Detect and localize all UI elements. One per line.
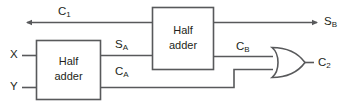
signal-label-y: Y [10,80,18,92]
signal-c1-base: C [58,5,66,17]
or-gate[interactable] [272,48,305,78]
signal-ca-base: C [115,65,123,77]
output-sb-arrow-icon [312,20,318,25]
carry-in-arrow-icon [26,20,32,25]
signal-sa-sub: A [123,43,129,52]
half-adder-b-label-line1: Half [173,24,194,36]
signal-label-x: X [10,48,18,60]
signal-x-base: X [10,48,18,60]
half-adder-b-label-line2: adder [169,39,197,51]
half-adder-a-label-line2: adder [54,70,82,82]
signal-label-c2: C2 [318,56,331,70]
wire-c1 [26,20,152,25]
signal-label-sb: SB [324,15,337,29]
signal-sb-sub: B [332,20,337,29]
signal-ca-sub: A [123,70,129,79]
half-adder-a-block[interactable]: Half adder [37,41,101,100]
half-adder-b-block[interactable]: Half adder [153,8,214,70]
or-gate-outline [272,48,305,78]
signal-c2-sub: 2 [326,61,331,70]
signal-label-ca: CA [115,65,129,79]
signal-label-c1: C1 [58,5,71,19]
signal-cb-base: C [236,40,244,52]
signal-label-cb: CB [236,40,250,54]
signal-y-base: Y [10,80,18,92]
signal-c2-base: C [318,56,326,68]
logic-circuit-diagram: Half adder Half adder C1 X Y SA CA [0,0,347,111]
circuit-canvas: Half adder Half adder C1 X Y SA CA [0,0,347,111]
signal-label-sa: SA [115,38,129,52]
signal-c1-sub: 1 [66,10,71,19]
wire-sb [214,20,318,25]
signal-cb-sub: B [244,45,249,54]
half-adder-a-label-line1: Half [59,55,80,67]
